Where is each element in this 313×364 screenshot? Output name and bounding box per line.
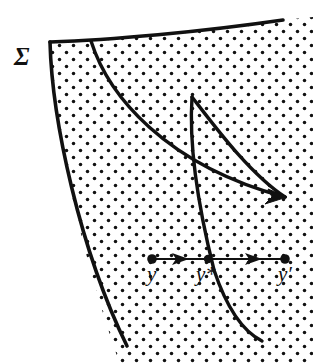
- point-label-y-prime: y′: [278, 264, 292, 285]
- point-label-y-star: y*: [196, 264, 216, 285]
- figure-container: Σ y y* y′: [0, 0, 313, 364]
- point-label-y: y: [147, 264, 156, 285]
- surface-label-sigma: Σ: [14, 44, 29, 69]
- diagram-canvas: [0, 0, 313, 364]
